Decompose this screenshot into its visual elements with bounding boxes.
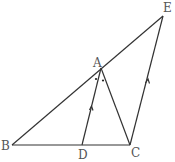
label-e: E: [163, 2, 172, 14]
segment-ac: [101, 68, 130, 145]
label-a: A: [93, 57, 102, 69]
geometry-diagram: A B C D E: [0, 0, 175, 162]
label-b: B: [1, 140, 10, 152]
segment-be: [12, 16, 163, 145]
label-c: C: [131, 147, 140, 159]
angle-mark-dot-left: [95, 78, 97, 80]
label-d: D: [78, 149, 88, 161]
diagram-lines: [0, 0, 175, 162]
angle-mark-dot-right: [102, 79, 104, 81]
